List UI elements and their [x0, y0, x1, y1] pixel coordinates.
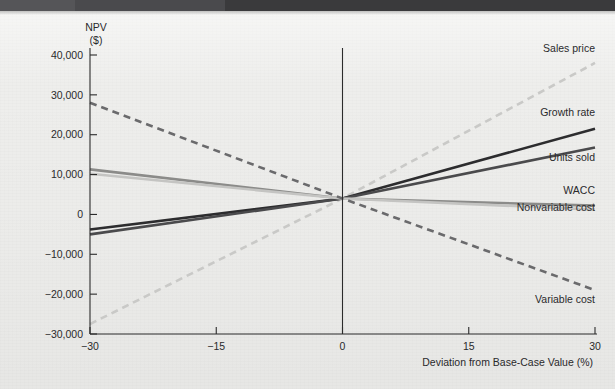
- series-label-wacc: WACC: [563, 184, 595, 196]
- y-tick-label: 0: [77, 208, 83, 220]
- x-tick-label: −30: [81, 340, 99, 352]
- x-tick-label: −15: [207, 340, 225, 352]
- sensitivity-analysis-chart: −30,000−20,000−10,000010,00020,00030,000…: [0, 0, 615, 389]
- y-tick-label: 40,000: [51, 49, 83, 61]
- label-layer: −30,000−20,000−10,000010,00020,00030,000…: [45, 21, 601, 368]
- axis-layer: [90, 48, 597, 334]
- y-axis-title-line1: NPV: [85, 21, 107, 33]
- y-axis-title-line2: ($): [90, 34, 103, 46]
- series-label-variable-cost: Variable cost: [535, 293, 595, 305]
- series-label-sales-price: Sales price: [543, 42, 595, 54]
- x-axis-title: Deviation from Base-Case Value (%): [422, 356, 593, 368]
- y-tick-label: 10,000: [51, 168, 83, 180]
- y-tick-label: −20,000: [45, 288, 83, 300]
- y-tick-label: 30,000: [51, 89, 83, 101]
- series-label-growth-rate: Growth rate: [540, 106, 595, 118]
- y-tick-label: −30,000: [45, 328, 83, 340]
- x-tick-label: 0: [340, 340, 346, 352]
- y-tick-label: −10,000: [45, 248, 83, 260]
- series-label-units-sold: Units sold: [549, 151, 595, 163]
- series-label-nonvariable-cost: Nonvariable cost: [517, 201, 595, 213]
- x-tick-label: 30: [589, 340, 601, 352]
- y-tick-label: 20,000: [51, 128, 83, 140]
- x-tick-label: 15: [463, 340, 475, 352]
